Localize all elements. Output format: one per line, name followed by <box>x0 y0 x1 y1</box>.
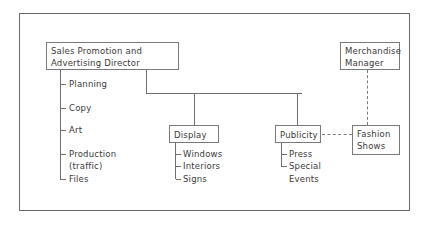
tick-special-events <box>282 166 287 167</box>
merchandise-manager-line1: Merchandise <box>345 45 395 57</box>
display-item-interiors: Interiors <box>183 160 220 172</box>
tick-interiors <box>176 166 181 167</box>
display-label: Display <box>174 130 207 140</box>
fashion-shows-line2: Shows <box>357 140 395 152</box>
tick-files <box>61 179 66 180</box>
display-connector <box>194 93 195 125</box>
publicity-items-connector <box>281 143 282 167</box>
director-title-line2: Advertising Director <box>51 57 174 69</box>
publicity-item-events: Events <box>289 173 319 185</box>
function-planning: Planning <box>69 78 107 90</box>
tick-signs <box>176 179 181 180</box>
function-production: Production <box>69 148 116 160</box>
fashion-shows-box: Fashion Shows <box>352 125 400 155</box>
merchandise-manager-box: Merchandise Manager <box>340 42 400 70</box>
tick-planning <box>61 84 66 85</box>
merchandise-to-fashion-dashed-connector <box>367 70 368 125</box>
function-production-sub: (traffic) <box>69 160 103 172</box>
tick-copy <box>61 108 66 109</box>
display-box: Display <box>169 125 219 143</box>
horizontal-branch-connector <box>146 93 302 94</box>
publicity-connector <box>297 93 298 125</box>
director-down-connector <box>146 70 147 94</box>
publicity-label: Publicity <box>280 130 318 140</box>
fashion-shows-line1: Fashion <box>357 128 395 140</box>
director-title-line1: Sales Promotion and <box>51 45 174 57</box>
director-box: Sales Promotion and Advertising Director <box>46 42 179 70</box>
display-item-signs: Signs <box>183 173 207 185</box>
publicity-box: Publicity <box>275 125 321 143</box>
merchandise-manager-line2: Manager <box>345 57 395 69</box>
tick-windows <box>176 154 181 155</box>
publicity-to-fashion-dashed-connector <box>322 134 352 135</box>
display-item-windows: Windows <box>183 148 222 160</box>
function-art: Art <box>69 124 82 136</box>
publicity-item-press: Press <box>289 148 312 160</box>
publicity-item-special: Special <box>289 160 321 172</box>
tick-production <box>61 154 66 155</box>
function-copy: Copy <box>69 102 91 114</box>
function-files: Files <box>69 173 89 185</box>
director-functions-connector <box>60 70 61 180</box>
tick-art <box>61 130 66 131</box>
display-items-connector <box>175 143 176 179</box>
tick-press <box>282 154 287 155</box>
